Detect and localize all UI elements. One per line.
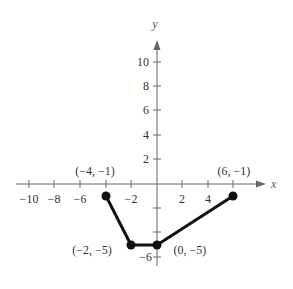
x-tick-label: 4 (205, 192, 211, 206)
point-label: (6, −1) (218, 164, 251, 178)
y-axis-arrow-icon (154, 40, 161, 50)
x-tick-label: 2 (179, 192, 185, 206)
x-tick-label: −8 (48, 192, 61, 206)
x-axis-arrow-icon (256, 181, 266, 188)
x-tick-label: −6 (74, 192, 87, 206)
y-tick-label: 4 (143, 128, 149, 142)
point-label: (0, −5) (174, 243, 207, 257)
y-tick-label: 6 (143, 103, 149, 117)
x-axis-label: x (270, 177, 277, 191)
data-point (102, 192, 111, 201)
x-tick-label: −2 (125, 192, 138, 206)
x-tick-label: −10 (20, 192, 39, 206)
data-series (102, 192, 238, 250)
y-tick-label: 10 (137, 55, 149, 69)
y-tick-label: 8 (143, 79, 149, 93)
y-axis: 10 8 6 4 2 −6 y (137, 17, 161, 266)
point-label: (−4, −1) (75, 164, 115, 178)
piecewise-line-chart: −10 −8 −6 −2 2 4 x 10 8 6 4 2 −6 y (0, 0, 293, 289)
data-point (229, 192, 238, 201)
y-axis-label: y (151, 17, 158, 31)
y-tick-label: 2 (143, 152, 149, 166)
data-point (127, 241, 136, 250)
y-tick-label: −6 (139, 250, 152, 264)
data-point (153, 241, 162, 250)
x-axis: −10 −8 −6 −2 2 4 x (16, 177, 277, 206)
point-label: (−2, −5) (72, 243, 112, 257)
